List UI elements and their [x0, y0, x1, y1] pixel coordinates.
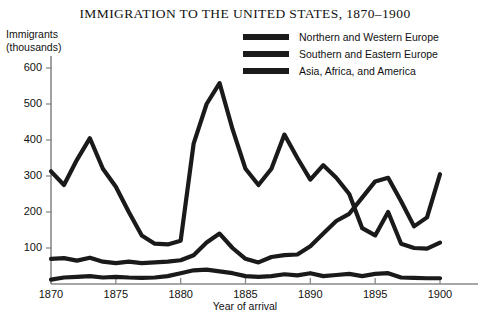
x-tick-label: 1875: [96, 288, 136, 300]
plot-area: [0, 0, 490, 317]
immigration-line-chart: IMMIGRATION TO THE UNITED STATES, 1870–1…: [0, 0, 490, 317]
x-tick-label: 1900: [420, 288, 460, 300]
y-tick-label: 200: [8, 205, 42, 217]
series-line-2: [51, 174, 440, 263]
series-line-1: [51, 83, 440, 249]
x-tick-label: 1895: [355, 288, 395, 300]
x-tick-label: 1880: [161, 288, 201, 300]
y-tick-label: 600: [8, 61, 42, 73]
x-axis-title: Year of arrival: [0, 300, 490, 312]
y-tick-label: 400: [8, 133, 42, 145]
series-line-3: [51, 270, 440, 280]
y-tick-label: 500: [8, 97, 42, 109]
x-tick-label: 1870: [31, 288, 71, 300]
y-tick-label: 300: [8, 169, 42, 181]
x-tick-label: 1885: [226, 288, 266, 300]
y-tick-label: 100: [8, 241, 42, 253]
x-tick-label: 1890: [290, 288, 330, 300]
